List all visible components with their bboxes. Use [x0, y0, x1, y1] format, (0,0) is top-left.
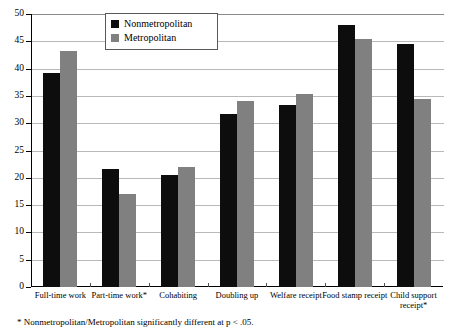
bar-metropolitan — [119, 194, 136, 287]
x-axis-labels: Full-time workPart-time work*CohabitingD… — [31, 290, 443, 316]
bar-metropolitan — [60, 51, 77, 287]
legend-swatch-icon-nonmetropolitan — [111, 20, 119, 28]
x-axis-tick — [266, 283, 267, 287]
legend-item-nonmetropolitan: Nonmetropolitan — [111, 17, 212, 31]
bars-layer — [31, 14, 443, 287]
bar-metropolitan — [237, 101, 254, 287]
y-tick-mark-0 — [26, 287, 31, 288]
bar-nonmetropolitan — [102, 169, 119, 287]
y-tick-label-35: 35 — [2, 91, 24, 101]
y-tick-label-50: 50 — [2, 9, 24, 19]
bar-metropolitan — [355, 39, 372, 287]
y-tick-label-25: 25 — [2, 146, 24, 156]
bar-metropolitan — [414, 99, 431, 287]
x-axis-label-child-support-receipt: Child support receipt* — [379, 290, 448, 310]
bar-group — [279, 14, 313, 287]
legend-label-nonmetropolitan: Nonmetropolitan — [124, 19, 192, 29]
x-axis-tick — [90, 283, 91, 287]
y-tick-label-15: 15 — [2, 200, 24, 210]
x-axis-tick — [384, 283, 385, 287]
bar-group — [43, 14, 77, 287]
bar-nonmetropolitan — [43, 73, 60, 287]
legend-item-metropolitan: Metropolitan — [111, 31, 212, 45]
bar-group — [338, 14, 372, 287]
y-tick-label-40: 40 — [2, 64, 24, 74]
x-axis-tick — [208, 283, 209, 287]
bar-nonmetropolitan — [220, 114, 237, 287]
legend: Nonmetropolitan Metropolitan — [105, 13, 218, 50]
y-tick-label-30: 30 — [2, 118, 24, 128]
bar-group — [220, 14, 254, 287]
y-tick-label-10: 10 — [2, 227, 24, 237]
chart-footnote: * Nonmetropolitan/Metropolitan significa… — [17, 317, 254, 328]
y-tick-label-5: 5 — [2, 255, 24, 265]
bar-group — [161, 14, 195, 287]
legend-label-metropolitan: Metropolitan — [124, 33, 176, 43]
y-tick-label-45: 45 — [2, 36, 24, 46]
bar-metropolitan — [296, 94, 313, 287]
y-tick-label-20: 20 — [2, 173, 24, 183]
bar-nonmetropolitan — [338, 25, 355, 287]
x-axis-tick — [325, 283, 326, 287]
y-tick-label-0: 0 — [2, 282, 24, 292]
x-axis-tick — [149, 283, 150, 287]
bar-nonmetropolitan — [161, 175, 178, 287]
legend-swatch-icon-metropolitan — [111, 34, 119, 42]
bar-chart: 05101520253035404550 Nonmetropolitan Met… — [0, 0, 458, 334]
bar-group — [397, 14, 431, 287]
bar-nonmetropolitan — [279, 105, 296, 287]
bar-metropolitan — [178, 167, 195, 287]
bar-nonmetropolitan — [397, 44, 414, 287]
bar-group — [102, 14, 136, 287]
